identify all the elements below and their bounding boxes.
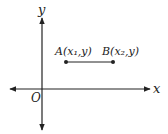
point-a-label: A(x₁,y) — [54, 45, 92, 58]
origin-label: O — [31, 91, 41, 105]
point-b — [111, 60, 115, 64]
coordinate-diagram: y x O A(x₁,y) B(x₂,y) — [0, 0, 168, 134]
point-b-label: B(x₂,y) — [101, 45, 139, 58]
y-axis-label: y — [37, 2, 46, 17]
point-a — [64, 60, 68, 64]
x-axis-label: x — [153, 81, 161, 96]
diagram-svg: y x O A(x₁,y) B(x₂,y) — [0, 0, 168, 134]
